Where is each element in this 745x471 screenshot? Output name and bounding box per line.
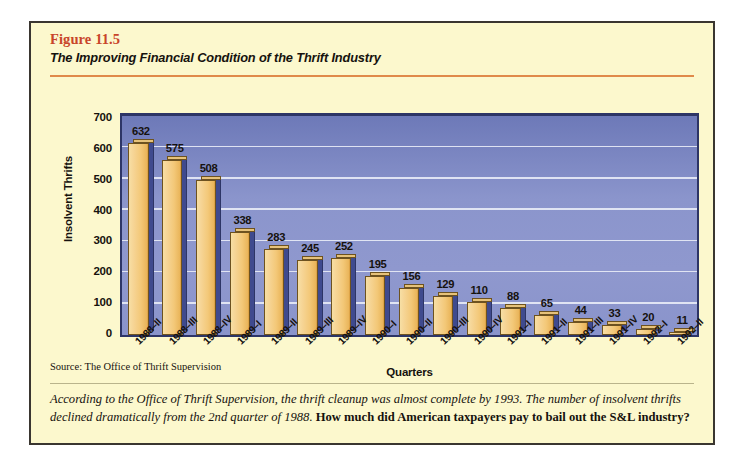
bar-front-face [331,258,351,335]
figure-title: The Improving Financial Condition of the… [50,49,690,66]
figure-number: Figure 11.5 [50,31,690,48]
bar-value-label: 44 [566,304,595,316]
bar-front-face [196,180,216,335]
caption-question: How much did American taxpayers pay to b… [316,410,690,424]
y-tick-label: 700 [93,111,112,123]
figure-header: Figure 11.5 The Improving Financial Cond… [50,31,690,66]
plot-area: 6325755083382832452521951561291108865443… [120,113,699,337]
bar-value-label: 252 [329,240,358,252]
gridline [122,146,697,147]
bar-value-label: 508 [194,162,223,174]
y-tick-label: 500 [93,173,112,185]
bar-value-label: 245 [295,242,324,254]
bar-value-label: 88 [498,290,527,302]
bar-shadow-side [250,228,255,331]
bar-value-label: 338 [228,214,257,226]
bar-value-label: 195 [363,258,392,270]
bar-value-label: 283 [262,231,291,243]
bar-value-label: 632 [126,125,155,137]
y-axis-ticks: 0100200300400500600700 [70,117,116,333]
bar [128,139,153,335]
y-tick-label: 0 [106,327,112,339]
bar [162,156,187,335]
y-tick-label: 300 [93,234,112,246]
bar-front-face [297,260,317,335]
source-note: Source: The Office of Thrift Supervision [50,361,221,372]
bar-value-label: 33 [600,307,629,319]
bar-chart: Insolvent Thrifts 0100200300400500600700… [42,85,706,375]
figure-caption: According to the Office of Thrift Superv… [50,391,694,426]
bar-value-label: 156 [397,270,426,282]
y-tick-label: 400 [93,204,112,216]
bar-shadow-side [182,156,187,331]
bar-front-face [264,249,284,335]
y-tick-label: 600 [93,142,112,154]
bar-shadow-side [149,139,154,331]
caption-divider [50,383,694,384]
bar-front-face [162,160,182,335]
header-divider [50,75,694,77]
bar [196,176,221,335]
bar-value-label: 575 [160,142,189,154]
figure-panel: Figure 11.5 The Improving Financial Cond… [29,21,715,445]
bar-shadow-side [216,176,221,331]
bar-value-label: 65 [532,297,561,309]
bar [230,228,255,335]
bar-value-label: 110 [465,284,494,296]
y-tick-label: 200 [93,265,112,277]
bar-front-face [128,143,148,335]
y-tick-label: 100 [93,296,112,308]
bar-value-label: 129 [431,278,460,290]
